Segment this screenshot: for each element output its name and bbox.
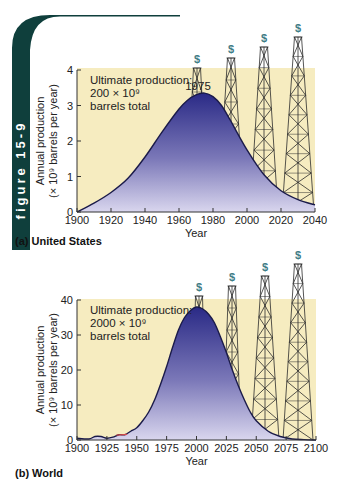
x-axis-title: Year (185, 227, 208, 239)
y-tick-label: 2 (67, 135, 73, 147)
dollar-sign-icon: $ (228, 43, 234, 55)
x-tick-label: 1980 (201, 214, 225, 226)
panel-label: (b) World (15, 467, 63, 479)
panel-label: (a) United States (15, 235, 102, 247)
x-tick-label: 2000 (235, 214, 259, 226)
x-tick-label: 2100 (304, 442, 328, 454)
dollar-sign-icon: $ (229, 271, 235, 283)
y-tick-label: 10 (61, 399, 73, 411)
figure-canvas: figure 15-9 $$$$012341900192019401960198… (0, 0, 344, 495)
y-axis-title: Annual production(× 10⁹ barrels per year… (34, 84, 59, 198)
y-tick-label: 20 (61, 364, 73, 376)
y-tick-label: 40 (61, 294, 73, 306)
y-tick-label: 30 (61, 329, 73, 341)
x-tick-label: 2075 (274, 442, 298, 454)
y-axis-title: Annual production(× 10⁹ barrels per year… (34, 313, 59, 427)
dollar-sign-icon: $ (295, 249, 301, 261)
x-tick-label: 2040 (303, 214, 327, 226)
x-tick-label: 1960 (167, 214, 191, 226)
x-tick-label: 2000 (184, 442, 208, 454)
x-tick-label: 2025 (214, 442, 238, 454)
x-tick-label: 1940 (133, 214, 157, 226)
chart-world: $$$$010203040190019251950197520002025205… (15, 249, 328, 479)
peak-year-label: 1975 (185, 80, 211, 92)
figure-tab-label: figure 15-9 (13, 121, 28, 220)
dollar-sign-icon: $ (194, 53, 200, 65)
x-tick-label: 1920 (99, 214, 123, 226)
x-tick-label: 1925 (95, 442, 119, 454)
y-tick-label: 3 (67, 100, 73, 112)
x-tick-label: 1950 (125, 442, 149, 454)
x-tick-label: 2020 (269, 214, 293, 226)
observed-data-segment (116, 434, 127, 435)
dollar-sign-icon: $ (261, 32, 267, 44)
dollar-sign-icon: $ (295, 22, 301, 34)
x-tick-label: 1900 (65, 442, 89, 454)
x-tick-label: 1900 (65, 214, 89, 226)
dollar-sign-icon: $ (196, 281, 202, 293)
dollar-sign-icon: $ (262, 261, 268, 273)
chart-united-states: $$$$012341900192019401960198020002020204… (15, 22, 327, 247)
y-tick-label: 1 (67, 171, 73, 183)
x-tick-label: 2050 (244, 442, 268, 454)
x-tick-label: 1975 (154, 442, 178, 454)
y-tick-label: 4 (67, 64, 73, 76)
x-axis-title: Year (185, 455, 208, 467)
